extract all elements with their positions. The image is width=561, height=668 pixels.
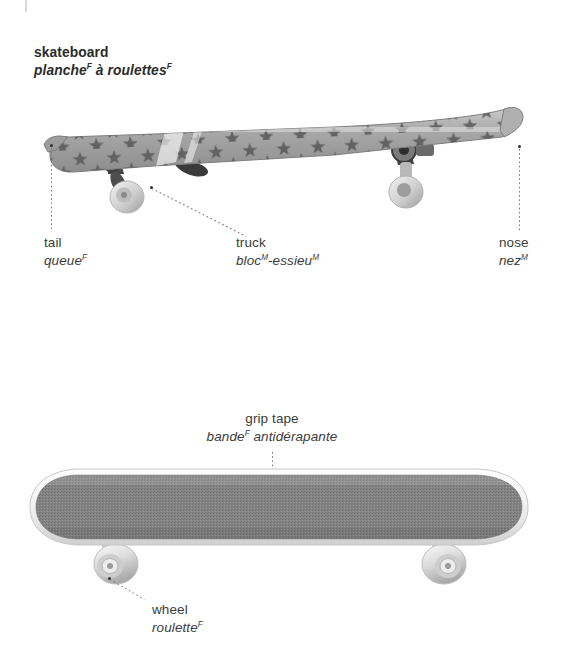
- callout-grip-tape: grip tape bandeF antidérapante: [172, 410, 372, 446]
- callout-tail-fr: queueF: [44, 252, 87, 270]
- tail-leader-line: [51, 148, 52, 232]
- callout-nose: nose nezM: [499, 234, 529, 270]
- crop-mark: [25, 0, 27, 12]
- deck: [34, 100, 534, 230]
- skateboard-top-view: [24, 462, 539, 607]
- nose-leader-dot: [518, 145, 521, 148]
- callout-tail-en: tail: [44, 234, 87, 252]
- callout-nose-fr: nezM: [499, 252, 529, 270]
- callout-grip-tape-fr: bandeF antidérapante: [172, 428, 372, 446]
- page-title-fr: plancheF à roulettesF: [34, 62, 172, 80]
- callout-truck-en: truck: [236, 234, 319, 252]
- callout-wheel: wheel rouletteF: [152, 601, 203, 637]
- diagram-canvas: skateboard plancheF à roulettesF: [0, 0, 561, 668]
- page-title: skateboard plancheF à roulettesF: [34, 44, 172, 80]
- callout-grip-tape-en: grip tape: [172, 410, 372, 428]
- skateboard-side-view: [34, 100, 534, 230]
- page-title-en: skateboard: [34, 44, 172, 62]
- nose-leader-line: [519, 149, 520, 232]
- callout-wheel-fr: rouletteF: [152, 619, 203, 637]
- callout-nose-en: nose: [499, 234, 529, 252]
- callout-wheel-en: wheel: [152, 601, 203, 619]
- callout-tail: tail queueF: [44, 234, 87, 270]
- callout-truck-fr: blocM-essieuM: [236, 252, 319, 270]
- tail-leader-dot: [50, 144, 53, 147]
- callout-truck: truck blocM-essieuM: [236, 234, 319, 270]
